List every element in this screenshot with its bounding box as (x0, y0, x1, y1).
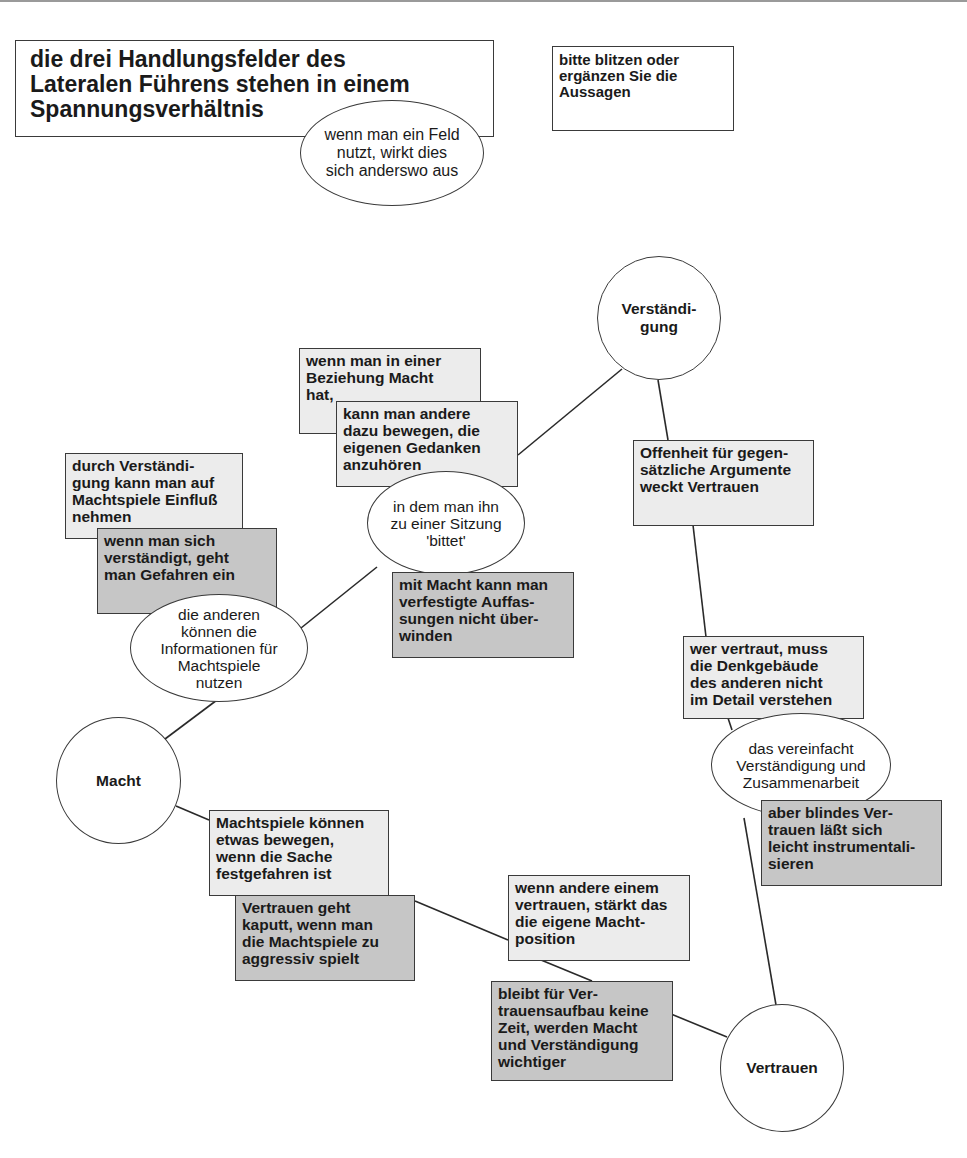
statement-offenheit: Offenheit für gegen- sätzliche Argumente… (633, 440, 814, 526)
node-verstaendigung: Verständi- gung (597, 256, 721, 380)
connector-macht-verstaendigung-1 (165, 700, 217, 739)
bubble-sitzung: in dem man ihn zu einer Sitzung 'bittet' (367, 471, 525, 575)
statement-verfestigte-auffassungen: mit Macht kann man verfestigte Auffas- s… (392, 572, 574, 658)
node-vertrauen: Vertrauen (720, 1004, 844, 1132)
statement-keine-zeit: bleibt für Ver- trauensaufbau keine Zeit… (491, 981, 673, 1081)
connector-macht-verstaendigung-3 (518, 369, 622, 455)
connector-macht-verstaendigung-2 (301, 567, 377, 628)
node-macht: Macht (56, 717, 181, 844)
statement-andere-vertrauen: wenn andere einem vertrauen, stärkt das … (508, 875, 690, 961)
statement-durch-verstaendigung: durch Verständi- gung kann man auf Macht… (65, 453, 243, 539)
connector-macht-vertrauen-4 (671, 1014, 727, 1037)
statement-machtspiele-bewegen: Machtspiele können etwas bewegen, wenn d… (209, 810, 389, 896)
statement-vertrauen-kaputt: Vertrauen geht kaputt, wenn man die Mach… (235, 895, 415, 981)
connector-verstaendigung-vertrauen-2 (693, 525, 706, 637)
connector-macht-vertrauen-2 (415, 901, 508, 940)
connector-macht-vertrauen-1 (176, 806, 209, 820)
connector-verstaendigung-vertrauen-3 (728, 718, 732, 730)
instruction-text: bitte blitzen oder ergänzen Sie die Auss… (559, 52, 727, 100)
instruction-box: bitte blitzen oder ergänzen Sie die Auss… (552, 46, 734, 131)
bubble-informationen: die anderen können die Informationen für… (130, 594, 308, 702)
title-bubble: wenn man ein Feld nutzt, wirkt dies sich… (300, 100, 484, 206)
connector-macht-vertrauen-3 (541, 960, 592, 981)
statement-wer-vertraut: wer vertraut, muss die Denkgebäude des a… (683, 636, 864, 719)
statement-blindes-vertrauen: aber blindes Ver- trauen läßt sich leich… (761, 800, 942, 886)
connector-verstaendigung-vertrauen-1 (658, 380, 668, 440)
